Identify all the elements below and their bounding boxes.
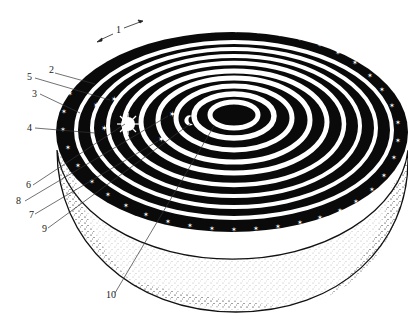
svg-text:✶: ✶ xyxy=(297,219,303,227)
svg-text:✶: ✶ xyxy=(165,218,171,226)
svg-text:✶: ✶ xyxy=(75,162,81,170)
planet-star: ✶ xyxy=(93,101,100,110)
svg-text:✶: ✶ xyxy=(395,137,401,145)
svg-text:✶: ✶ xyxy=(337,207,343,215)
label-6: 6 xyxy=(26,179,31,190)
svg-text:✶: ✶ xyxy=(167,30,173,38)
cosmos-diagram: ✶✶✶ ✶✶✶ ✶✶✶ ✶✶✶ ✶✶✶ ✶✶✶ ✶✶✶ ✶✶✶ ✶✶✶ ✶✶✶ … xyxy=(0,0,408,321)
svg-text:✶: ✶ xyxy=(231,226,237,234)
svg-text:✶: ✶ xyxy=(233,27,239,35)
svg-text:✶: ✶ xyxy=(389,102,395,110)
svg-text:✶: ✶ xyxy=(143,211,149,219)
label-7: 7 xyxy=(29,209,34,220)
label-10: 10 xyxy=(106,289,116,300)
planet-star: ✶ xyxy=(111,95,118,104)
svg-text:✶: ✶ xyxy=(367,72,373,80)
svg-text:✶: ✶ xyxy=(255,28,261,36)
label-1: 1 xyxy=(116,24,121,35)
svg-text:✶: ✶ xyxy=(253,225,259,233)
svg-text:✶: ✶ xyxy=(91,60,97,68)
svg-text:✶: ✶ xyxy=(209,225,215,233)
svg-text:✶: ✶ xyxy=(65,144,71,152)
svg-text:✶: ✶ xyxy=(277,31,283,39)
earth xyxy=(217,106,251,124)
label-3: 3 xyxy=(32,88,37,99)
svg-text:✶: ✶ xyxy=(381,172,387,180)
svg-text:✶: ✶ xyxy=(369,186,375,194)
svg-text:✶: ✶ xyxy=(395,119,401,127)
svg-text:✶: ✶ xyxy=(353,198,359,206)
svg-text:✶: ✶ xyxy=(352,59,358,67)
svg-text:✶: ✶ xyxy=(379,86,385,94)
svg-text:✶: ✶ xyxy=(127,40,133,48)
label-8: 8 xyxy=(16,195,21,206)
svg-text:✶: ✶ xyxy=(105,191,111,199)
svg-text:✶: ✶ xyxy=(317,41,323,49)
label-2: 2 xyxy=(49,64,54,75)
svg-text:✶: ✶ xyxy=(187,222,193,230)
svg-text:✶: ✶ xyxy=(275,223,281,231)
sun-icon xyxy=(117,113,139,135)
svg-text:✶: ✶ xyxy=(147,34,153,42)
svg-text:✶: ✶ xyxy=(317,214,323,222)
svg-text:✶: ✶ xyxy=(61,108,67,116)
svg-text:✶: ✶ xyxy=(123,202,129,210)
svg-text:✶: ✶ xyxy=(391,154,397,162)
svg-text:✶: ✶ xyxy=(211,27,217,35)
svg-text:✶: ✶ xyxy=(297,35,303,43)
svg-text:✶: ✶ xyxy=(107,49,113,57)
label-5: 5 xyxy=(27,71,32,82)
svg-text:✶: ✶ xyxy=(67,90,73,98)
planet-star: ✶ xyxy=(101,124,108,133)
label-9: 9 xyxy=(42,223,47,234)
planet-star: ✶ xyxy=(158,135,165,144)
label-4: 4 xyxy=(27,122,32,133)
svg-text:✶: ✶ xyxy=(189,28,195,36)
planet-star: ✶ xyxy=(169,110,176,119)
svg-text:✶: ✶ xyxy=(335,49,341,57)
